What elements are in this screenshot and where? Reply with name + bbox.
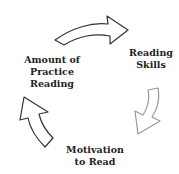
node-amount-of-practice-reading: Amount of Practice Reading [22,54,82,90]
node-label-line: Amount of [22,54,82,66]
arrow-amount-to-skills-icon [55,16,128,45]
arrow-motivation-to-amount-icon [20,97,53,147]
node-label-line: Reading [126,47,176,59]
node-label-line: Practice [22,66,82,78]
node-motivation-to-read: Motivation to Read [62,144,128,168]
arrow-skills-to-motivation-icon [135,88,160,134]
node-label-line: to Read [62,156,128,168]
node-label-line: Reading [22,78,82,90]
node-label-line: Motivation [62,144,128,156]
reading-cycle-diagram: Amount of Practice Reading Reading Skill… [0,0,179,174]
node-reading-skills: Reading Skills [126,47,176,71]
node-label-line: Skills [126,59,176,71]
